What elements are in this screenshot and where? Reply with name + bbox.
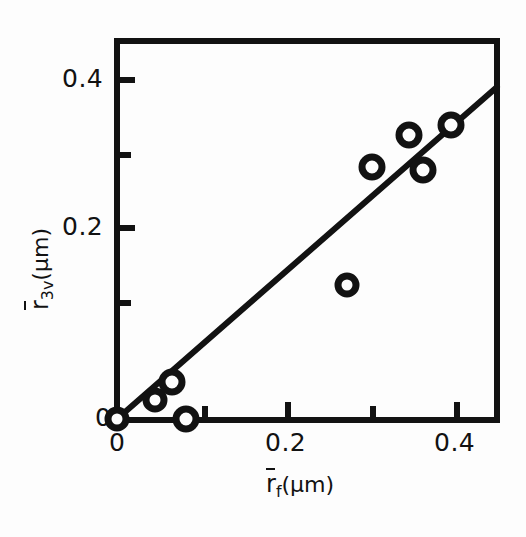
overbar-glyph	[266, 468, 275, 470]
y-axis-title-symbol: r	[26, 300, 54, 310]
y-axis-title-units: (μm)	[28, 228, 53, 281]
data-point	[146, 391, 164, 409]
data-point	[413, 160, 433, 180]
x-tick-label-0.2: 0.2	[265, 428, 306, 457]
x-tick-label-0.4: 0.4	[434, 428, 475, 457]
data-point	[338, 276, 356, 294]
data-point	[399, 125, 419, 145]
x-axis-title: rf(μm)	[266, 470, 334, 501]
data-point	[362, 157, 382, 177]
data-point	[162, 372, 182, 392]
y-tick-label-0.2: 0.2	[62, 212, 103, 241]
y-axis-title-prefix: r	[26, 300, 54, 310]
y-axis-title-subscript: 3v	[38, 281, 57, 300]
data-point	[176, 409, 196, 429]
figure-container: 0.4 0.2 0 0 0.2 0.4 r3v(μm) rf(μm)	[0, 0, 526, 537]
y-tick-label-0.4: 0.4	[62, 64, 103, 93]
overbar-glyph	[24, 301, 26, 310]
x-axis-title-symbol: r	[266, 470, 276, 498]
data-point	[441, 115, 461, 135]
x-tick-label-0: 0	[109, 428, 125, 457]
y-axis-title: r3v(μm)	[26, 228, 57, 310]
x-axis-title-prefix: r	[266, 470, 276, 498]
x-axis-title-units: (μm)	[281, 472, 334, 497]
frame-border	[117, 41, 497, 420]
plot-frame	[117, 41, 497, 420]
